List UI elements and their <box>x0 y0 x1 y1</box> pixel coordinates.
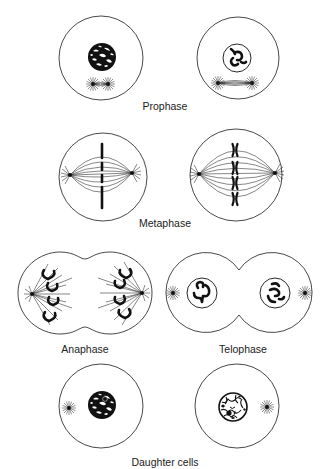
nuclear-envelope <box>223 44 251 72</box>
nucleus <box>219 393 247 421</box>
prophase-cell-early <box>59 16 143 100</box>
label-daughter-cells: Daughter cells <box>131 456 198 468</box>
prophase-stage: Prophase <box>59 16 279 112</box>
telophase-right-daughter <box>260 278 312 308</box>
chromosomes-right <box>115 269 132 318</box>
aster <box>298 286 312 300</box>
centrosome <box>260 400 274 414</box>
nucleus <box>88 43 116 71</box>
metaphase-cell-early <box>59 133 147 221</box>
chromosomes-left <box>43 270 59 321</box>
nucleolus <box>103 397 108 402</box>
daughter-cells-stage: Daughter cells <box>59 364 279 468</box>
label-metaphase: Metaphase <box>139 217 191 229</box>
nucleolus <box>226 410 231 415</box>
daughter-cell-right <box>195 364 279 448</box>
spindle-fibers-left <box>24 264 72 325</box>
aster <box>166 286 180 300</box>
spindle-fibers-right <box>98 262 150 325</box>
telophase-left-daughter <box>166 278 217 308</box>
metaphase-stage: Metaphase <box>59 129 284 229</box>
mitosis-diagram: Prophase <box>0 0 330 469</box>
centrosome <box>62 401 76 415</box>
nucleus <box>88 391 116 419</box>
metaphase-cell-late <box>190 129 284 221</box>
label-telophase: Telophase <box>219 343 267 355</box>
telophase-stage: Telophase <box>166 252 312 355</box>
label-prophase: Prophase <box>143 100 188 112</box>
label-anaphase: Anaphase <box>61 343 108 355</box>
centriole-pair <box>86 77 115 91</box>
spindle-forming <box>211 76 259 90</box>
prophase-cell-late <box>197 17 279 99</box>
anaphase-stage: Anaphase <box>18 252 152 355</box>
sister-chromatid-pairs <box>233 144 238 205</box>
daughter-cell-left <box>59 364 143 448</box>
